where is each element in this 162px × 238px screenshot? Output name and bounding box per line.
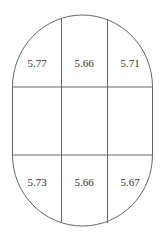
stadium-outline — [13, 15, 153, 226]
stadium-diagram — [0, 0, 162, 238]
cell-bottom-right: 5.67 — [107, 176, 153, 188]
cell-top-right: 5.71 — [107, 57, 153, 69]
cell-bottom-center: 5.66 — [61, 176, 107, 188]
cell-bottom-left: 5.73 — [14, 176, 60, 188]
cell-top-left: 5.77 — [14, 57, 60, 69]
cell-top-center: 5.66 — [61, 57, 107, 69]
